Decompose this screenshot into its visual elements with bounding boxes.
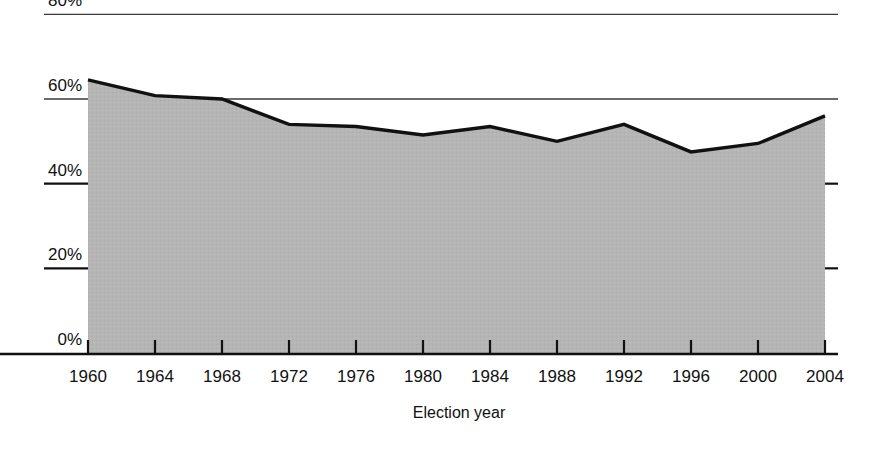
x-tick-label-2000: 2000 (739, 367, 777, 386)
y-tick-label-80pct: 80% (48, 0, 82, 10)
x-tick-label-1964: 1964 (136, 367, 174, 386)
x-tick-label-1996: 1996 (672, 367, 710, 386)
x-tick-label-1988: 1988 (538, 367, 576, 386)
x-tick-label-1960: 1960 (69, 367, 107, 386)
area-chart: 0%20%40%60%80% 1960196419681972197619801… (0, 0, 878, 450)
y-tick-label-60pct: 60% (48, 76, 82, 95)
x-tick-label-1984: 1984 (471, 367, 509, 386)
x-tick-label-1972: 1972 (270, 367, 308, 386)
y-tick-label-0pct: 0% (57, 330, 82, 349)
y-tick-label-20pct: 20% (48, 245, 82, 264)
x-tick-label-1980: 1980 (404, 367, 442, 386)
chart-container: 0%20%40%60%80% 1960196419681972197619801… (0, 0, 878, 450)
y-tick-label-40pct: 40% (48, 161, 82, 180)
x-tick-label-2004: 2004 (806, 367, 844, 386)
x-tick-label-1968: 1968 (203, 367, 241, 386)
x-axis-title: Election year (413, 404, 506, 421)
x-tick-label-1976: 1976 (337, 367, 375, 386)
x-tick-label-1992: 1992 (605, 367, 643, 386)
